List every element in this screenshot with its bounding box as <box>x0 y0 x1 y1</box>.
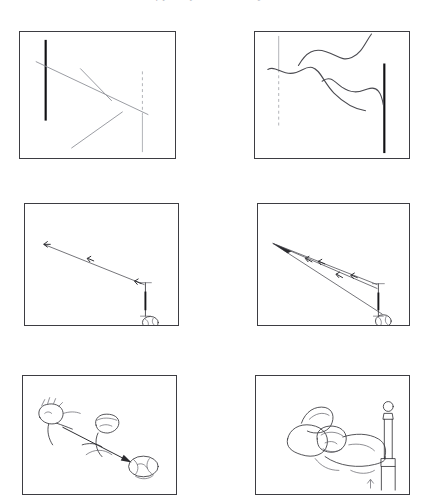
blanket-crease <box>309 413 329 419</box>
ball-seam-2 <box>152 318 155 325</box>
panel-6-drawing <box>256 376 409 494</box>
diagonal-stroke-1 <box>36 62 149 115</box>
figure-left <box>39 398 80 445</box>
panel-2 <box>254 31 410 159</box>
sleeper-cover-fold-2 <box>315 459 339 471</box>
bedpost-finial <box>383 402 393 412</box>
ball-seam-2 <box>147 459 151 474</box>
figure-left-body <box>48 424 53 445</box>
figure-centre <box>82 414 119 456</box>
wavy-stroke-1 <box>298 34 371 66</box>
convergence-apex <box>273 243 292 253</box>
ball-seam-1 <box>145 319 148 325</box>
wavy-stroke-3 <box>322 79 383 105</box>
figure-left-face <box>45 412 52 413</box>
sleeper-cover-fold-1 <box>349 444 375 451</box>
trajectory-arrow-ticks <box>44 241 142 284</box>
pillow <box>287 425 327 456</box>
panel-4-drawing <box>258 204 409 325</box>
trajectory-line-1 <box>44 244 145 284</box>
panel-2-drawing <box>255 32 409 158</box>
ball-seam-1 <box>134 460 138 475</box>
figure-left-head <box>39 404 63 424</box>
blanket-fold <box>301 407 333 433</box>
bedpost-base <box>381 459 395 467</box>
bedpost-leg <box>381 466 395 490</box>
ball-seam-3 <box>138 464 148 469</box>
ball-seam-1 <box>378 317 381 325</box>
bedpost <box>381 402 395 490</box>
figure-centre-cap <box>97 418 117 420</box>
diagonal-stroke-3 <box>71 112 122 148</box>
ball-outline <box>129 456 159 477</box>
ball-outline <box>142 316 158 325</box>
ball <box>129 456 159 479</box>
foot-mark <box>368 479 374 488</box>
sleeper-head <box>317 426 346 452</box>
figure-centre-head <box>96 414 119 433</box>
bedpost-collar <box>383 413 393 419</box>
wavy-stroke-2 <box>268 67 366 111</box>
panel-6 <box>255 375 410 495</box>
sleeper-cover-fold-3 <box>351 470 375 473</box>
sleeper-body-top <box>343 434 386 458</box>
panel-4 <box>257 203 410 326</box>
sleeper-head-outline <box>317 426 346 452</box>
figure-centre-face <box>100 425 112 426</box>
panel-1-drawing <box>20 32 175 158</box>
panel-5-drawing <box>23 376 176 494</box>
motion-arrow-head <box>121 455 132 463</box>
trajectory-line-3 <box>273 243 383 314</box>
motion-arrow-shaft <box>62 427 127 460</box>
panel-3-drawing <box>25 204 178 325</box>
figure-left-cue <box>63 412 80 413</box>
panel-5 <box>22 375 177 495</box>
panel-1 <box>19 31 176 159</box>
sleeper-body-bottom <box>325 457 385 467</box>
panel-3 <box>24 203 179 326</box>
ball <box>142 316 158 325</box>
ball-seam-2 <box>385 316 388 325</box>
